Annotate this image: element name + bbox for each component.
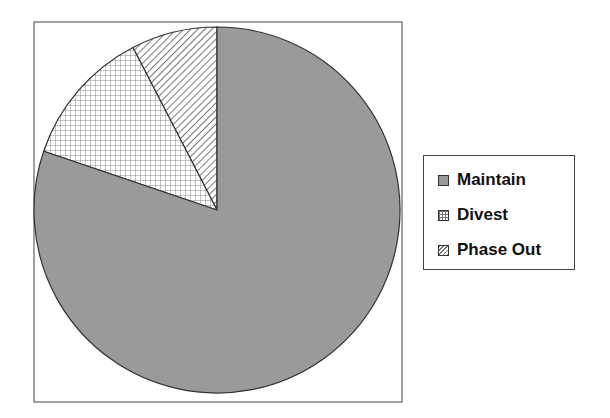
legend-item-phase-out: Phase Out (438, 240, 541, 260)
legend-item-maintain: Maintain (438, 170, 526, 190)
pie-slices (34, 27, 400, 393)
legend-label: Phase Out (457, 240, 541, 260)
legend-label: Divest (457, 205, 508, 225)
legend-label: Maintain (457, 170, 526, 190)
maintain-swatch-icon (438, 175, 449, 186)
legend: Maintain Divest Phase Out (423, 155, 575, 270)
legend-item-divest: Divest (438, 205, 508, 225)
divest-swatch-icon (438, 210, 449, 221)
phase-out-swatch-icon (438, 245, 449, 256)
